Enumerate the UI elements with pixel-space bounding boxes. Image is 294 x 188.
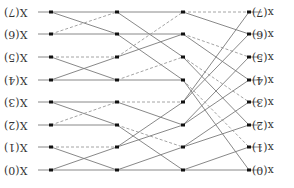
node-dot-icon: [247, 79, 251, 82]
node-dot-icon: [115, 146, 119, 149]
input-label-1: X(6): [4, 28, 27, 40]
input-label-7: X(0): [4, 164, 27, 176]
node-dot-icon: [49, 169, 53, 172]
node-dot-icon: [115, 33, 119, 36]
stage-2-edge-3: [117, 34, 183, 80]
input-label-3: X(4): [4, 74, 27, 86]
output-label-0: x(7): [252, 6, 274, 18]
output-label-6: x(1): [252, 141, 274, 153]
stage-3-edge-14: [183, 147, 249, 170]
output-label-5: x(2): [252, 119, 274, 131]
output-label-1: x(6): [252, 28, 274, 40]
node-dot-icon: [247, 56, 251, 59]
node-dot-icon: [247, 11, 251, 14]
input-label-5: X(2): [4, 119, 27, 131]
input-label-6: X(1): [4, 141, 27, 153]
stage-3-edge-12: [183, 102, 249, 147]
node-dot-icon: [49, 101, 53, 104]
stage-2-edge-15: [117, 147, 183, 170]
stage-2-edge-10: [117, 125, 183, 170]
input-label-0: X(7): [4, 6, 27, 18]
node-dot-icon: [181, 56, 185, 59]
node-dot-icon: [247, 101, 251, 104]
node-dot-icon: [181, 169, 185, 172]
node-dot-icon: [181, 146, 185, 149]
node-dot-icon: [247, 124, 251, 127]
stage-3-edge-1: [183, 12, 249, 34]
stage-3-edge-6: [183, 80, 249, 147]
stage-3-edge-9: [183, 34, 249, 102]
stage-2-edge-7: [117, 57, 183, 80]
node-dot-icon: [115, 56, 119, 59]
node-dot-icon: [115, 124, 119, 127]
stage-3-edge-8: [183, 12, 249, 102]
node-dot-icon: [49, 146, 53, 149]
stage-3-edge-11: [183, 80, 249, 125]
node-dot-icon: [115, 101, 119, 104]
node-dot-icon: [181, 124, 185, 127]
node-dot-icon: [247, 169, 251, 172]
output-label-4: x(3): [252, 96, 274, 108]
node-dot-icon: [181, 101, 185, 104]
stage-2-edge-12: [117, 102, 183, 147]
input-label-2: X(5): [4, 51, 27, 63]
node-dot-icon: [49, 11, 53, 14]
output-label-3: x(4): [252, 74, 274, 86]
fft-butterfly-diagram: [0, 0, 294, 188]
node-dot-icon: [49, 124, 53, 127]
stage-3-edge-4: [183, 57, 249, 102]
node-dot-icon: [49, 79, 53, 82]
node-dot-icon: [115, 11, 119, 14]
node-dot-icon: [49, 56, 53, 59]
stage-3-edge-13: [183, 125, 249, 147]
input-label-4: X(3): [4, 96, 27, 108]
node-dot-icon: [49, 33, 53, 36]
stage-2-edge-9: [117, 102, 183, 125]
node-dot-icon: [181, 79, 185, 82]
node-dot-icon: [115, 79, 119, 82]
stage-2-edge-5: [117, 34, 183, 57]
output-label-2: x(5): [252, 51, 274, 63]
node-dot-icon: [115, 169, 119, 172]
node-dot-icon: [247, 146, 251, 149]
output-label-7: x(0): [252, 164, 274, 176]
node-dot-icon: [247, 33, 251, 36]
node-dot-icon: [181, 11, 185, 14]
node-dot-icon: [181, 33, 185, 36]
stage-3-edge-2: [183, 34, 249, 57]
